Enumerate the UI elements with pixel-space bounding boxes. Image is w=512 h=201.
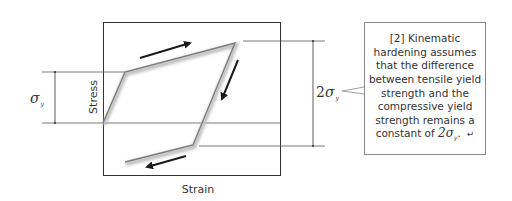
callout-line: hardening assumes: [369, 46, 481, 60]
callout-line: strength and the: [369, 87, 481, 101]
callout-pointer: [342, 87, 364, 94]
callout-line: constant of 2σy.↵: [369, 127, 481, 145]
arrow-unloading-icon: [222, 60, 238, 99]
plot-frame: [104, 23, 281, 176]
sigma-y-label: σy: [30, 90, 45, 108]
period: .: [457, 127, 460, 139]
callout-text: [2] Kinematic hardening assumes that the…: [369, 32, 481, 145]
hysteresis-curve: [103, 43, 235, 162]
two-sigma-y-inline: 2σ: [438, 126, 454, 140]
x-axis-label: Strain: [182, 183, 215, 196]
callout-line: between tensile yield: [369, 73, 481, 87]
callout-line: compressive yield: [369, 100, 481, 114]
y-axis-label: Stress: [87, 80, 100, 114]
callout-line: that the difference: [369, 59, 481, 73]
callout-box: [2] Kinematic hardening assumes that the…: [364, 22, 486, 155]
return-icon: ↵: [467, 129, 475, 139]
callout-line-prefix: constant of: [376, 127, 438, 139]
arrow-loading-icon: [140, 43, 190, 58]
callout-line: [2] Kinematic: [369, 32, 481, 46]
callout-line: strength remains a: [369, 114, 481, 128]
two-sigma-y-label: 2σy: [316, 84, 339, 102]
